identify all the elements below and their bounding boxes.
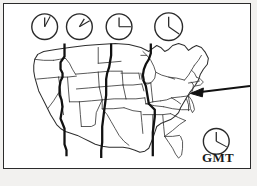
- state-border-tn-ms-al: [143, 114, 171, 115]
- state-border-nc-sc: [171, 114, 186, 121]
- state-border-ga-fl: [165, 135, 180, 136]
- timezone-boundary-lines: [60, 44, 155, 159]
- great-lakes-erie: [156, 72, 175, 79]
- state-border-or-ca: [37, 77, 59, 79]
- state-border-al-ga: [163, 115, 165, 137]
- state-outline-texas: [102, 100, 129, 145]
- state-border-nm-tx: [81, 100, 102, 127]
- state-border-ar-la: [124, 108, 141, 112]
- clock-pacific: [32, 14, 58, 40]
- state-border-wy-east: [98, 72, 99, 87]
- state-border-pa-ny: [169, 77, 185, 80]
- state-border-wv-va: [172, 98, 181, 104]
- state-border-oh-wv: [161, 98, 172, 101]
- state-border-ca-nv-diag: [48, 93, 59, 109]
- state-border-maine: [194, 55, 201, 65]
- figure-frame: [3, 3, 251, 169]
- state-border-ia-mo: [123, 84, 142, 85]
- bottom-cropped-caption: [4, 179, 253, 186]
- state-border-il-in: [151, 83, 153, 102]
- state-border-wy-co: [76, 87, 99, 89]
- state-border-az-nm: [79, 102, 81, 127]
- state-outline-florida: [165, 136, 183, 158]
- mountain-central-boundary: [101, 44, 111, 159]
- state-border-ia-east: [142, 84, 144, 91]
- state-border-va-nc: [164, 107, 190, 110]
- state-border-in-oh: [153, 101, 161, 102]
- state-border-pa-md: [172, 96, 189, 98]
- state-border-co-east: [99, 87, 102, 100]
- state-outline-delmarva: [189, 96, 195, 113]
- gmt-label: GMT: [202, 150, 234, 166]
- state-border-mn-east: [139, 73, 140, 79]
- timezone-map-figure: [4, 4, 250, 168]
- state-border-mo-east: [145, 98, 146, 104]
- clock-row: [32, 13, 229, 154]
- state-border-ne-ks: [99, 85, 123, 87]
- state-border-mo-ar: [126, 98, 145, 99]
- us-map-state-outlines: [34, 44, 209, 159]
- state-border-nv-ut: [67, 77, 69, 102]
- state-border-ks-east: [123, 85, 126, 99]
- state-border-co-nm: [79, 100, 102, 102]
- state-border-sc-ga: [165, 121, 186, 137]
- state-border-id-mt: [66, 58, 76, 74]
- state-border-ny-vt-nh: [185, 65, 195, 80]
- clock-eastern: [155, 13, 183, 41]
- clock-mountain: [66, 14, 92, 40]
- state-border-vt-nh: [191, 70, 196, 77]
- state-border-wa-or: [35, 59, 54, 60]
- mid-atlantic-pointer: [190, 86, 250, 97]
- state-border-mt-wy: [75, 72, 98, 74]
- pacific-mountain-boundary: [60, 44, 67, 157]
- state-border-sd-ne: [98, 71, 122, 72]
- clock-central: [106, 14, 132, 40]
- chesapeake-bay: [187, 99, 189, 111]
- figure-root: GMT United States time zone map with clo…: [0, 0, 257, 186]
